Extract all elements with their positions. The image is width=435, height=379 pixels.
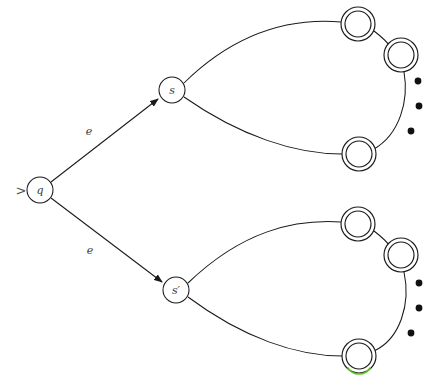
state-node-label: s′ bbox=[172, 284, 181, 297]
ellipsis-lower bbox=[408, 280, 423, 337]
ellipsis-dot bbox=[416, 280, 423, 287]
state-node-s-prime[interactable]: s′ bbox=[163, 277, 189, 303]
edge-layer bbox=[51, 21, 406, 356]
state-node-s[interactable]: s bbox=[159, 77, 185, 103]
ellipsis-upper bbox=[408, 78, 423, 135]
accepting-state-inner-ring bbox=[345, 211, 371, 237]
automaton-diagram: > q s s′ e e bbox=[0, 0, 435, 379]
ellipsis-dot bbox=[408, 128, 415, 135]
accepting-state-inner-ring bbox=[345, 11, 371, 37]
edge-s-to-accept-top-1 bbox=[184, 21, 341, 83]
state-node-label: q bbox=[36, 184, 43, 197]
accepting-state-top-2[interactable] bbox=[384, 38, 418, 72]
edge-s-to-accept-top-3 bbox=[184, 97, 342, 154]
accepting-state-inner-ring bbox=[388, 242, 414, 268]
edge-q-to-s bbox=[51, 99, 158, 182]
accepting-state-bottom-2[interactable] bbox=[384, 238, 418, 272]
edge-label-lower-e: e bbox=[87, 244, 94, 257]
accepting-state-bottom-1[interactable] bbox=[341, 207, 375, 241]
edge-s-prime-to-accept-bottom-3 bbox=[188, 297, 342, 356]
accepting-state-inner-ring bbox=[346, 343, 372, 369]
accepting-state-inner-ring bbox=[346, 141, 372, 167]
edge-s-prime-to-accept-bottom-1 bbox=[188, 222, 341, 283]
accepting-state-bottom-3[interactable] bbox=[342, 339, 376, 374]
diagram-canvas: > q s s′ e e bbox=[0, 0, 435, 379]
edge-label-layer: e e bbox=[86, 125, 94, 257]
state-node-label: s bbox=[169, 84, 175, 97]
node-layer: > q s s′ bbox=[16, 77, 189, 303]
ellipsis-dot bbox=[416, 103, 423, 110]
accepting-state-top-3[interactable] bbox=[342, 137, 376, 171]
start-arrow-marker: > bbox=[16, 183, 27, 198]
ellipsis-dot bbox=[415, 78, 422, 85]
edge-arc-bottom-right bbox=[374, 272, 406, 351]
accepting-state-inner-ring bbox=[388, 42, 414, 68]
edge-arc-top-right bbox=[374, 72, 405, 149]
state-node-q[interactable]: q bbox=[27, 177, 53, 203]
edge-label-upper-e: e bbox=[86, 125, 93, 138]
edge-q-to-s-prime bbox=[51, 198, 162, 282]
ellipsis-dot bbox=[408, 330, 415, 337]
ellipsis-dot bbox=[416, 305, 423, 312]
accepting-state-top-1[interactable] bbox=[341, 7, 375, 41]
accepting-state-layer bbox=[341, 7, 418, 374]
